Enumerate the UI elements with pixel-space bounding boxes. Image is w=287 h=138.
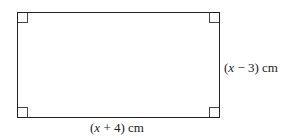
right-angle-marker-top-right [209, 13, 219, 23]
right-angle-marker-bottom-left [18, 107, 28, 117]
right-angle-marker-bottom-right [209, 107, 219, 117]
height-label: (x − 3) cm [224, 60, 278, 76]
width-label-rest: + 4) cm [100, 120, 144, 135]
rectangle [17, 12, 220, 118]
height-label-rest: − 3) cm [234, 60, 278, 75]
width-label: (x + 4) cm [90, 120, 144, 136]
right-angle-marker-top-left [18, 13, 28, 23]
